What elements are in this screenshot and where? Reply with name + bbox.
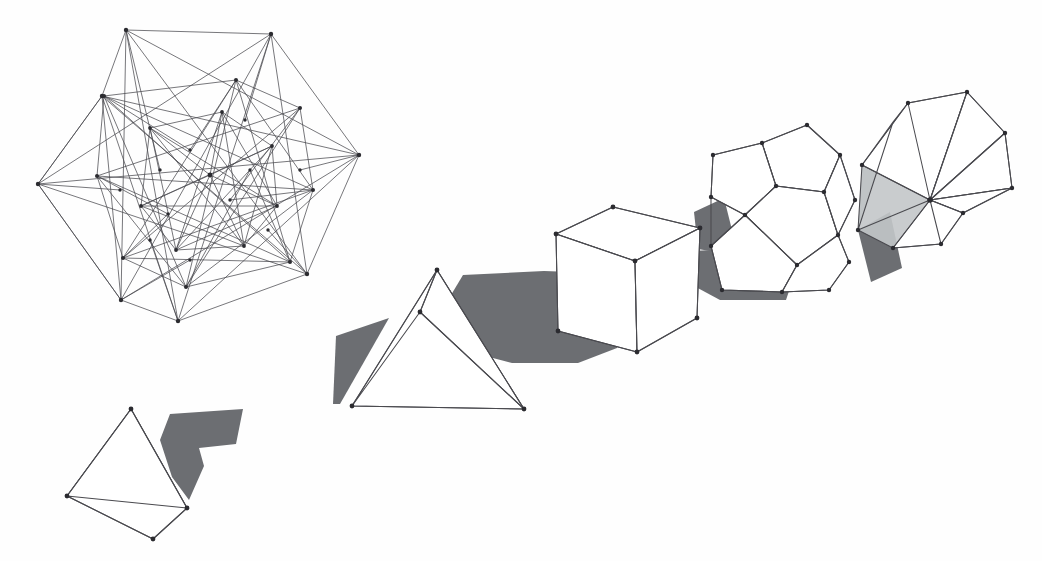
hexahedron bbox=[554, 205, 703, 355]
graph-wireframe bbox=[36, 28, 361, 323]
polyhedra-scene bbox=[0, 0, 1042, 561]
graph-mid-ring bbox=[97, 80, 313, 287]
graph-vertices bbox=[36, 28, 361, 323]
figure-root: Platonic and Archimedean solids with wir… bbox=[0, 0, 1042, 561]
dodecahedron bbox=[709, 123, 857, 294]
icosahedron bbox=[856, 90, 1014, 250]
